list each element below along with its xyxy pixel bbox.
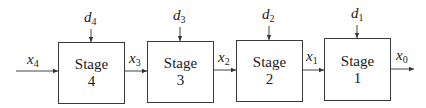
stage-4-number: 4 <box>88 73 96 90</box>
stage-1-block: Stage 1 <box>324 38 391 101</box>
stage-2-label: Stage <box>253 54 286 71</box>
decision-d4-label: d4 <box>84 10 97 29</box>
stage-2-block: Stage 2 <box>236 40 303 102</box>
stage-3-label: Stage <box>164 55 197 72</box>
decision-d3-label: d3 <box>173 8 186 27</box>
state-x4-label: x4 <box>27 52 39 71</box>
state-x3-label: x3 <box>129 51 141 70</box>
stage-1-number: 1 <box>354 70 362 87</box>
state-x2-label: x2 <box>218 50 230 69</box>
stage-3-block: Stage 3 <box>147 41 214 103</box>
decision-d2-label: d2 <box>262 7 275 26</box>
stage-4-label: Stage <box>75 56 108 73</box>
stage-3-number: 3 <box>177 72 185 89</box>
state-x0-label: x0 <box>396 48 408 67</box>
stage-2-number: 2 <box>266 71 274 88</box>
stage-4-block: Stage 4 <box>58 42 125 104</box>
state-x1-label: x1 <box>306 49 318 68</box>
decision-d1-label: d1 <box>351 6 364 25</box>
stage-1-label: Stage <box>341 53 374 70</box>
